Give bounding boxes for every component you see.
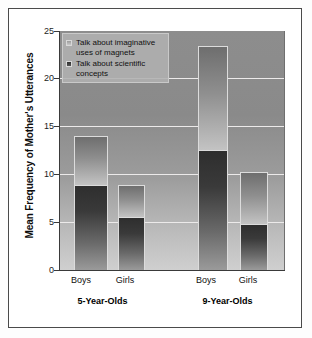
x-tick-label-9yo-boys: Boys: [183, 275, 229, 285]
group-label-9-year-olds: 9-Year-Olds: [180, 296, 275, 306]
scientific-swatch-icon: [66, 61, 72, 67]
group-label-5-year-olds: 5-Year-Olds: [55, 296, 150, 306]
x-tick-label-5yo-boys: Boys: [58, 275, 104, 285]
x-tick-label-5yo-girls: Girls: [102, 275, 148, 285]
imaginative-swatch-icon: [66, 40, 72, 46]
y-tick-label-20: 20: [14, 74, 54, 83]
x-tick-label-9yo-girls: Girls: [225, 275, 271, 285]
y-tick-label-0: 0: [14, 266, 54, 275]
bar-9yo-boys: [198, 46, 228, 270]
bar-segment-imaginative: [74, 136, 108, 185]
y-tick-label-15: 15: [14, 122, 54, 131]
bar-segment-scientific: [198, 150, 228, 270]
bar-segment-imaginative: [198, 46, 228, 150]
bar-segment-scientific: [240, 224, 268, 270]
bar-segment-imaginative: [118, 185, 145, 217]
legend-item-imaginative: Talk about imaginative uses of magnets: [66, 38, 164, 57]
y-tick-label-5: 5: [14, 218, 54, 227]
bar-segment-imaginative: [240, 172, 268, 224]
bar-segment-scientific: [118, 217, 145, 270]
legend-label-scientific: Talk about scientific concepts: [76, 59, 164, 78]
legend-item-scientific: Talk about scientific concepts: [66, 59, 164, 78]
y-tick-label-10: 10: [14, 170, 54, 179]
bar-5yo-boys: [74, 136, 108, 270]
legend-label-imaginative: Talk about imaginative uses of magnets: [76, 38, 164, 57]
bar-segment-scientific: [74, 185, 108, 270]
y-tick-label-25: 25: [14, 27, 54, 36]
chart-figure: Mean Frequency of Mother's Utterances 25…: [0, 0, 312, 338]
bar-5yo-girls: [118, 185, 145, 270]
x-axis-line: [59, 270, 285, 271]
bar-9yo-girls: [240, 172, 268, 270]
chart-legend: Talk about imaginative uses of magnets T…: [62, 33, 169, 83]
gridline-15: [60, 126, 284, 127]
y-axis-labels: 25 20 15 10 5 0: [10, 0, 54, 338]
